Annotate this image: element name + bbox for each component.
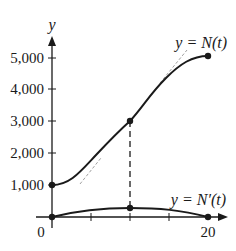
y-tick-label-3000: 3,000	[10, 113, 44, 129]
n-prime-start-point	[49, 214, 55, 220]
n-prime-max-point	[127, 205, 133, 211]
y-tick-label-5000: 5,000	[10, 50, 44, 66]
y-tick-label-2000: 2,000	[10, 145, 44, 161]
n-start-point	[49, 182, 55, 188]
n-prime-curve-label: y = N′(t)	[169, 191, 226, 209]
n-curve-label: y = N(t)	[173, 34, 227, 52]
chart: 5,000 4,000 3,000 2,000 1,000 0 20 y y =…	[0, 0, 236, 251]
y-axis-label: y	[46, 16, 56, 34]
y-axis-arrow-icon	[48, 36, 56, 46]
x-tick-label-0: 0	[37, 224, 45, 240]
n-end-point	[205, 53, 211, 59]
n-prime-end-point	[205, 214, 211, 220]
x-tick-label-20: 20	[201, 224, 216, 240]
y-tick-label-4000: 4,000	[10, 81, 44, 97]
tangent-line-upper	[160, 50, 187, 83]
y-tick-label-1000: 1,000	[10, 177, 44, 193]
x-axis-arrow-icon	[218, 213, 228, 221]
n-inflection-point	[127, 118, 133, 124]
